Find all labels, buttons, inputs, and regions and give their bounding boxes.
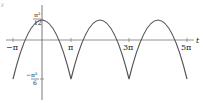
label-3pi: 3π: [123, 43, 133, 52]
curve-f: [13, 20, 187, 79]
label-top-num: π²: [34, 11, 41, 18]
label-bot-den: 6: [33, 79, 37, 86]
chart: −π π 3π 5π t y π² 12 −π² 6: [0, 0, 203, 103]
label-pi: π: [68, 43, 73, 52]
label-5pi: 5π: [181, 43, 191, 52]
label-t-axis: t: [196, 36, 200, 45]
label-y-axis: y: [0, 1, 4, 8]
label-neg-pi: −π: [6, 43, 18, 52]
label-bot-num: −π²: [26, 71, 38, 78]
label-top-den: 12: [34, 19, 42, 26]
